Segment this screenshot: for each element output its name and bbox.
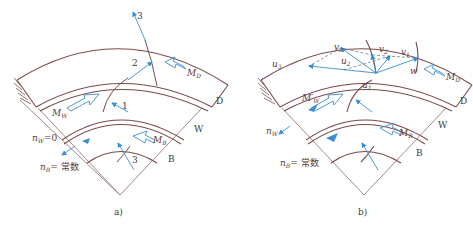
- svg-text:v1: v1: [401, 47, 410, 58]
- panel-b: v3 v2 v1 u3 u2 u1 w MD M′W MB D W B nW n…: [258, 40, 472, 217]
- svg-text:MW: MW: [51, 108, 68, 119]
- svg-text:W: W: [438, 120, 448, 130]
- svg-text:MB: MB: [398, 128, 413, 139]
- svg-text:v2: v2: [379, 44, 388, 55]
- svg-text:w: w: [410, 66, 418, 76]
- svg-text:nB= 常数: nB= 常数: [280, 157, 319, 169]
- label-ring-b: B: [168, 154, 175, 164]
- panel-a: 3 2 1 3 MD MW MB D W B nW=0 nB= 常数 a): [14, 11, 228, 217]
- svg-text:MB: MB: [152, 135, 167, 146]
- svg-text:MD: MD: [186, 68, 201, 79]
- caption-b: b): [358, 207, 367, 217]
- svg-text:u1: u1: [362, 80, 372, 91]
- label-stream-3-bottom: 3: [132, 155, 138, 165]
- label-stream-3-top: 3: [137, 11, 143, 21]
- svg-text:nW: nW: [266, 126, 279, 137]
- caption-a: a): [114, 207, 123, 217]
- svg-text:nW=0: nW=0: [32, 133, 58, 144]
- svg-text:nB= 常数: nB= 常数: [40, 161, 79, 173]
- svg-text:MD: MD: [445, 72, 460, 83]
- label-stream-2: 2: [132, 58, 138, 68]
- svg-text:u3: u3: [272, 59, 282, 70]
- hollow-arrow-mb: [133, 131, 155, 143]
- label-stream-1: 1: [122, 101, 128, 111]
- svg-text:B: B: [416, 148, 423, 158]
- svg-text:D: D: [460, 96, 467, 106]
- svg-text:u2: u2: [341, 56, 351, 67]
- label-ring-d: D: [216, 96, 223, 106]
- torque-converter-diagram: 3 2 1 3 MD MW MB D W B nW=0 nB= 常数 a): [0, 0, 473, 234]
- svg-text:M′W: M′W: [301, 93, 320, 104]
- diagram-canvas: 3 2 1 3 MD MW MB D W B nW=0 nB= 常数 a): [0, 0, 473, 234]
- label-ring-w: W: [194, 124, 204, 134]
- hollow-arrow-mw: [67, 94, 99, 111]
- svg-text:v3: v3: [334, 42, 343, 53]
